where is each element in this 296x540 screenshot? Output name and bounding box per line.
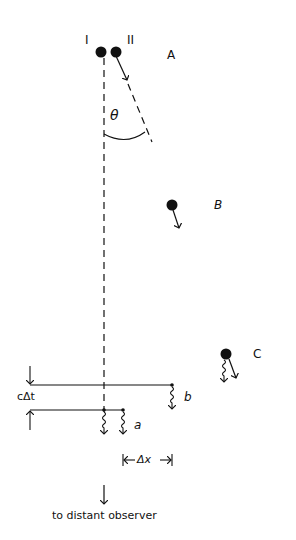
label-pulse-b: b xyxy=(184,391,192,403)
ball-C xyxy=(221,349,232,360)
pulse-b-icon xyxy=(171,387,174,409)
ball-II-arrow-icon xyxy=(116,56,127,80)
label-position-B: B xyxy=(214,199,222,211)
label-ball-I: I xyxy=(85,34,89,46)
ball-C-arrow-icon xyxy=(229,359,236,378)
ball-B-arrow-icon xyxy=(173,210,179,228)
label-angle-theta: θ xyxy=(110,108,119,122)
label-distant-observer: to distant observer xyxy=(52,510,157,521)
point-a1-dot xyxy=(102,408,106,412)
label-delta-x: Δx xyxy=(137,454,151,465)
point-b-dot xyxy=(170,383,174,387)
pulse-a1-icon xyxy=(103,412,106,434)
label-ball-II: II xyxy=(127,34,134,46)
ball-B xyxy=(167,200,178,211)
pulse-a2-icon xyxy=(122,412,125,434)
point-a2-dot xyxy=(121,408,125,412)
label-position-A: A xyxy=(167,49,175,61)
ball-II xyxy=(111,47,122,58)
slanted-dashed-line xyxy=(128,84,152,142)
ball-I xyxy=(96,47,107,58)
label-c-delta-t: cΔt xyxy=(17,391,35,402)
ball-C-wave-arrow-icon xyxy=(223,360,226,382)
angle-arc xyxy=(104,132,145,140)
label-position-C: C xyxy=(253,348,261,360)
label-pulse-a: a xyxy=(134,419,141,431)
